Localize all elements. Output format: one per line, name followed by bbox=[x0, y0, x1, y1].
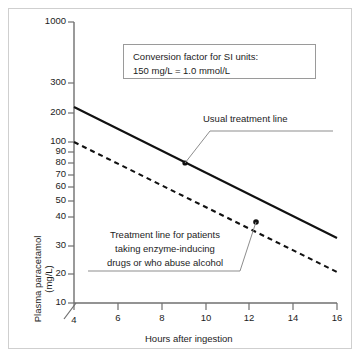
y-axis-title: Plasma paracetamol (mg/L) bbox=[32, 224, 54, 334]
x-tick-label-12: 12 bbox=[237, 313, 261, 323]
x-tick-marks bbox=[74, 303, 337, 310]
paracetamol-treatment-nomogram: 1000 300 200 100 90 80 70 60 50 40 30 20… bbox=[0, 0, 361, 357]
x-tick-label-8: 8 bbox=[150, 313, 174, 323]
x-axis-title: Hours after ingestion bbox=[145, 333, 233, 344]
si-conversion-line-2: 150 mg/L = 1.0 mmol/L bbox=[133, 64, 307, 78]
y-tick-label-300: 300 bbox=[22, 77, 66, 87]
annotation-enzyme-line-3: drugs or who abuse alcohol bbox=[92, 256, 238, 270]
y-tick-marks bbox=[68, 22, 74, 303]
x-tick-label-14: 14 bbox=[281, 313, 305, 323]
si-conversion-box: Conversion factor for SI units: 150 mg/L… bbox=[123, 44, 316, 79]
x-tick-label-10: 10 bbox=[194, 313, 218, 323]
annotation-usual-treatment-line: Usual treatment line bbox=[203, 112, 287, 126]
y-axis-title-wrap: Plasma paracetamol (mg/L) bbox=[26, 110, 40, 230]
series-usual-treatment-line bbox=[74, 107, 337, 238]
si-conversion-line-1: Conversion factor for SI units: bbox=[133, 50, 307, 64]
annotation-enzyme-line-1: Treatment line for patients bbox=[92, 228, 238, 242]
y-tick-label-1000: 1000 bbox=[22, 16, 66, 26]
x-tick-label-4: 4 bbox=[62, 315, 86, 325]
x-tick-label-6: 6 bbox=[106, 313, 130, 323]
leader-usual-treatment bbox=[185, 131, 333, 163]
annotation-enzyme-line-2: taking enzyme-inducing bbox=[92, 242, 238, 256]
annotation-enzyme-inducing: Treatment line for patients taking enzym… bbox=[92, 228, 238, 269]
x-tick-label-16: 16 bbox=[325, 313, 349, 323]
